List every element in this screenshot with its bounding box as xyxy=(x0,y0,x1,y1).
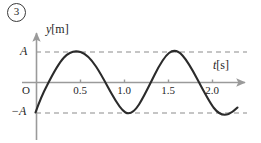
x-tick-label-1: 1.0 xyxy=(109,84,139,96)
figure-container: 3 y[m] t[s] A −A O 0.5 1.0 1.5 2.0 xyxy=(0,0,261,143)
origin-label: O xyxy=(22,84,30,96)
x-tick-label-0: 0.5 xyxy=(65,84,95,96)
amplitude-positive-label: A xyxy=(20,44,27,59)
y-axis-unit: [m] xyxy=(51,22,68,36)
amplitude-negative-label: −A xyxy=(11,104,26,119)
y-axis-label: y[m] xyxy=(46,22,69,37)
x-tick-label-2: 1.5 xyxy=(153,84,183,96)
t-axis-unit: [s] xyxy=(216,58,229,72)
x-tick-label-3: 2.0 xyxy=(197,84,227,96)
t-axis-label: t[s] xyxy=(213,58,229,73)
